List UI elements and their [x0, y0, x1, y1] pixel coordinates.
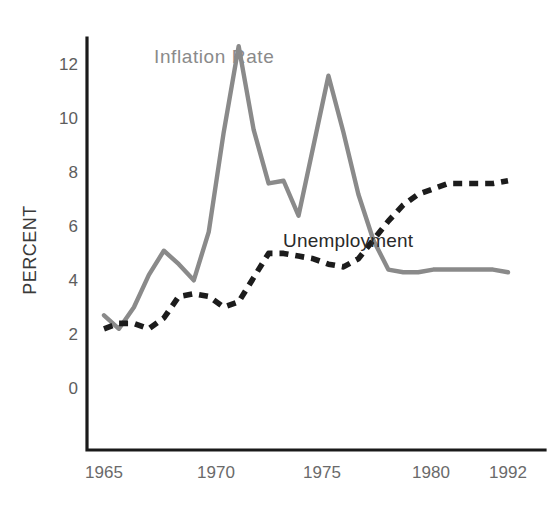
x-tick-label-1975: 1975	[303, 463, 341, 482]
x-tick-label-1992: 1992	[489, 463, 527, 482]
inflation-rate-series-label: Inflation Rate	[154, 46, 274, 67]
chart-figure: 0 2 4 6 8 10 12 PERCENT 1965 1970 1975 1…	[0, 0, 555, 508]
y-tick-label-4: 4	[69, 271, 78, 290]
unemployment-series-label: Unemployment	[283, 230, 414, 251]
x-tick-label-1980: 1980	[412, 463, 450, 482]
economic-indicators-line-chart: 0 2 4 6 8 10 12 PERCENT 1965 1970 1975 1…	[0, 0, 555, 508]
y-tick-label-2: 2	[69, 325, 78, 344]
y-tick-label-10: 10	[59, 109, 78, 128]
y-tick-label-6: 6	[69, 217, 78, 236]
x-tick-label-1965: 1965	[85, 463, 123, 482]
chart-background	[0, 0, 555, 508]
y-tick-label-0: 0	[69, 379, 78, 398]
x-tick-label-1970: 1970	[197, 463, 235, 482]
y-tick-label-12: 12	[59, 55, 78, 74]
y-axis-title: PERCENT	[20, 205, 40, 295]
y-tick-label-8: 8	[69, 163, 78, 182]
